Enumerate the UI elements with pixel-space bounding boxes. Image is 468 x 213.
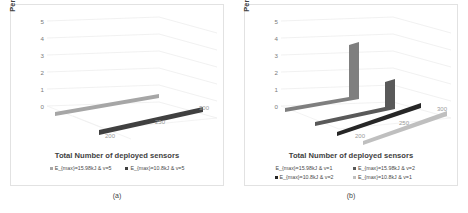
- legend-item-b-1[interactable]: E_{max}=15.98kJ & v=1: [259, 165, 349, 171]
- panel-b-caption: (b): [234, 192, 468, 199]
- legend-label: E_{max}=15.98kJ & v=2: [358, 165, 415, 171]
- legend-swatch-icon: [353, 176, 356, 179]
- panel-a-xtick-200: 200: [105, 133, 115, 139]
- panel-a-ytick-2: 2: [41, 69, 44, 76]
- panel-a-y-axis-title: Percentage of non-operational sensors: [9, 0, 23, 19]
- panel-a-data-bars: [47, 15, 217, 143]
- panel-a-caption: (a): [0, 192, 234, 199]
- legend-label: E_{max}=10.8kJ & v=2: [280, 174, 334, 180]
- panel-b-ytick-3: 3: [275, 52, 278, 59]
- panel-b-ytick-5: 5: [275, 18, 278, 25]
- panel-b-ytick-1: 1: [275, 86, 278, 93]
- legend-swatch-icon: [125, 167, 128, 170]
- panel-a-ytick-1: 1: [41, 86, 44, 93]
- panel-b-plot-area: 5 4 3 2 1 0: [281, 15, 451, 143]
- panel-b-y-axis-title: Percentage of non-operational sensors: [243, 0, 257, 19]
- panel-b-xtick-200: 200: [355, 133, 365, 139]
- legend-swatch-icon: [50, 167, 53, 170]
- legend-label: E_{max}=10.8kJ & v=5: [130, 165, 184, 171]
- panel-a-ytick-4: 4: [41, 35, 44, 42]
- panel-a: Percentage of non-operational sensors 5 …: [0, 0, 234, 213]
- panel-a-xtick-250: 250: [155, 119, 165, 125]
- panel-a-ytick-3: 3: [41, 52, 44, 59]
- panel-b-ytick-4: 4: [275, 35, 278, 42]
- panel-a-bar-series-1: [55, 94, 159, 116]
- panel-b-data-bars: [281, 15, 451, 143]
- legend-item-a-2[interactable]: E_{max}=10.8kJ & v=5: [125, 165, 184, 171]
- panel-a-ytick-0: 0: [41, 103, 44, 110]
- panel-a-frame: Percentage of non-operational sensors 5 …: [10, 4, 224, 186]
- panel-a-plot-area: 5 4 3 2 1 0: [47, 15, 217, 143]
- panel-b-bar-series-1: [285, 42, 359, 112]
- panel-b-xtick-300: 300: [437, 106, 447, 112]
- panel-b: Percentage of non-operational sensors 5 …: [234, 0, 468, 213]
- legend-label: E_{max}=15.98kJ & v=1: [276, 165, 333, 171]
- panel-b-ytick-0: 0: [275, 103, 278, 110]
- panel-b-legend: E_{max}=15.98kJ & v=1 E_{max}=15.98kJ & …: [251, 165, 451, 180]
- panel-b-ytick-2: 2: [275, 69, 278, 76]
- panel-a-x-axis-title: Total Number of deployed sensors: [11, 151, 223, 160]
- panel-a-ytick-5: 5: [41, 18, 44, 25]
- panel-b-x-axis-title: Total Number of deployed sensors: [245, 151, 457, 160]
- panel-b-bar-series-4: [363, 111, 447, 145]
- legend-item-b-2[interactable]: E_{max}=15.98kJ & v=2: [353, 165, 443, 171]
- legend-item-a-1[interactable]: E_{max}=15.98kJ & v=5: [50, 165, 112, 171]
- panel-b-frame: Percentage of non-operational sensors 5 …: [244, 4, 458, 186]
- legend-item-b-4[interactable]: E_{max}=10.8kJ & v=1: [353, 174, 443, 180]
- legend-swatch-icon: [275, 176, 278, 179]
- panel-a-legend: E_{max}=15.98kJ & v=5 E_{max}=10.8kJ & v…: [17, 165, 217, 171]
- legend-label: E_{max}=15.98kJ & v=5: [55, 165, 112, 171]
- legend-label: E_{max}=10.8kJ & v=1: [358, 174, 412, 180]
- panel-a-xtick-300: 300: [199, 105, 209, 111]
- panel-b-xtick-250: 250: [399, 120, 409, 126]
- panel-a-bar-series-2: [99, 107, 203, 135]
- figure-two-panel-3d-bar-charts: Percentage of non-operational sensors 5 …: [0, 0, 468, 213]
- legend-swatch-icon: [353, 167, 356, 170]
- legend-item-b-3[interactable]: E_{max}=10.8kJ & v=2: [259, 174, 349, 180]
